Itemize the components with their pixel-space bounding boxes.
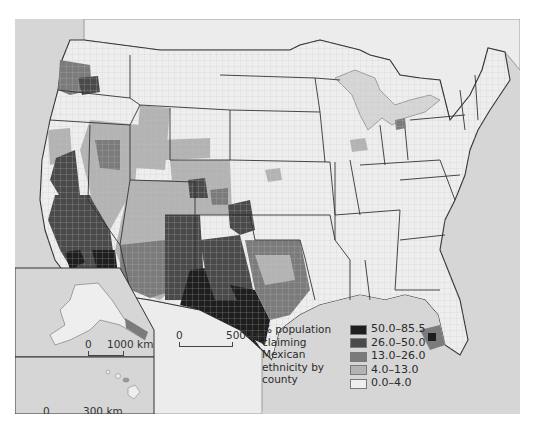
legend-title-line: claiming	[262, 336, 342, 349]
alaska-scale-bar: 0 1000 km	[85, 338, 170, 358]
hawaii-scale-distance: 300 km	[83, 405, 123, 414]
legend-item: 13.0–26.0	[350, 350, 425, 363]
legend-title-line: ethnicity by	[262, 361, 342, 374]
legend-title: % population claiming Mexican ethnicity …	[262, 323, 342, 386]
main-scale-bar: 0 500 km	[176, 329, 261, 349]
legend-title-line: Mexican	[262, 348, 342, 361]
hawaii-scale-bar: 0 300 km	[43, 405, 133, 414]
hawaii-scale-zero: 0	[43, 405, 50, 414]
legend-swatch	[350, 352, 367, 362]
legend-title-line: county	[262, 373, 342, 386]
alaska-scale-zero: 0	[85, 338, 92, 350]
legend-swatch	[350, 379, 367, 389]
main-scale-line	[179, 342, 233, 347]
main-scale-zero: 0	[176, 329, 183, 341]
legend-item: 0.0–4.0	[350, 377, 425, 390]
legend-label: 0.0–4.0	[371, 377, 412, 390]
legend-label: 13.0–26.0	[371, 350, 425, 363]
legend-item: 50.0–85.5	[350, 323, 425, 336]
legend-item: 26.0–50.0	[350, 337, 425, 350]
legend-swatch	[350, 338, 367, 348]
legend-title-line: % population	[262, 323, 342, 336]
legend-label: 26.0–50.0	[371, 337, 425, 350]
legend-swatch	[350, 365, 367, 375]
legend-item: 4.0–13.0	[350, 364, 425, 377]
legend-label: 50.0–85.5	[371, 323, 425, 336]
alaska-scale-line	[88, 351, 124, 356]
legend-items: 50.0–85.5 26.0–50.0 13.0–26.0 4.0–13.0 0…	[350, 323, 425, 391]
legend-label: 4.0–13.0	[371, 364, 419, 377]
legend-swatch	[350, 325, 367, 335]
alaska-scale-distance: 1000 km	[107, 338, 153, 350]
main-scale-distance: 500 km	[226, 329, 266, 341]
